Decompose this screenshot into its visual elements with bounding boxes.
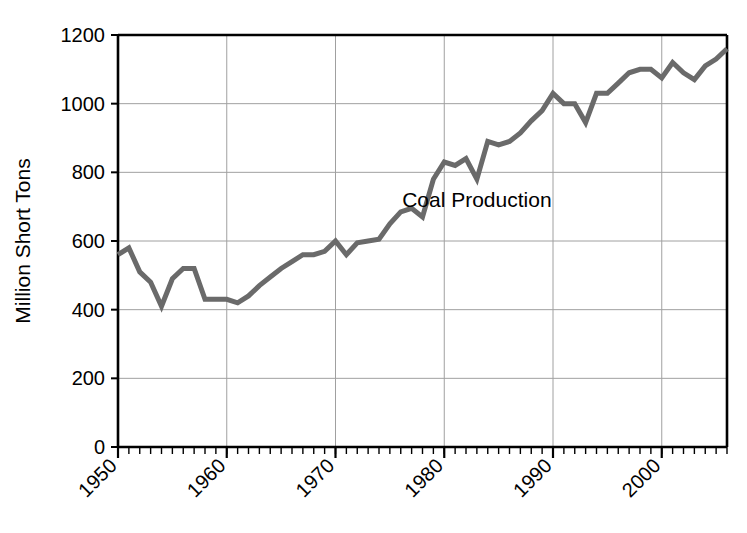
y-axis-title-text: Million Short Tons <box>11 158 34 323</box>
coal-production-line-chart: 020040060080010001200 195019601970198019… <box>0 0 747 533</box>
y-tick-label: 800 <box>72 161 105 183</box>
y-tick-label: 0 <box>94 436 105 458</box>
y-tick-label: 1000 <box>61 93 106 115</box>
plot-background <box>0 0 747 533</box>
series-label-text: Coal Production <box>402 188 551 211</box>
series-annotation-coal-production: Coal Production <box>402 188 551 211</box>
y-tick-label: 400 <box>72 299 105 321</box>
y-axis-title: Million Short Tons <box>11 158 34 323</box>
y-tick-label: 200 <box>72 367 105 389</box>
figure-container: 020040060080010001200 195019601970198019… <box>0 0 747 533</box>
y-tick-label: 600 <box>72 230 105 252</box>
y-tick-label: 1200 <box>61 24 106 46</box>
caption-fragment <box>0 524 340 533</box>
